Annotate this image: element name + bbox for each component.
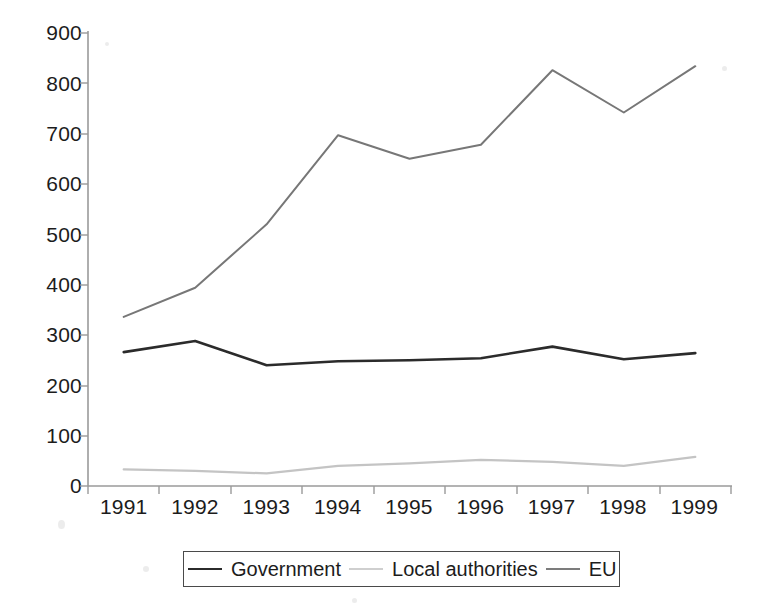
x-tick-label: 1991 [88, 495, 159, 525]
x-axis-ticks [88, 486, 731, 494]
x-tick-label: 1998 [587, 495, 658, 525]
legend-label-government: Government [231, 558, 341, 580]
legend-entry-local-authorities: Local authorities [345, 558, 542, 580]
series-line-government [124, 341, 696, 365]
x-tick-label: 1995 [373, 495, 444, 525]
data-series-group [124, 66, 696, 473]
legend-swatch-local-authorities [349, 568, 383, 570]
x-tick-label: 1993 [231, 495, 302, 525]
x-tick-label: 1994 [302, 495, 373, 525]
y-axis-ticks [80, 33, 88, 486]
scan-speckle [143, 566, 149, 572]
line-chart-figure: 900 800 700 600 500 400 300 200 100 0 [0, 0, 768, 609]
legend-swatch-government [188, 568, 222, 570]
scan-speckle [352, 598, 357, 603]
x-tick-label: 1999 [659, 495, 730, 525]
legend-swatch-eu [546, 568, 580, 570]
series-line-eu [124, 66, 696, 317]
legend-label-eu: EU [589, 558, 617, 580]
chart-axes [80, 31, 732, 494]
x-tick-label: 1992 [159, 495, 230, 525]
series-line-local-authorities [124, 457, 696, 474]
legend-entry-eu: EU [542, 558, 621, 580]
x-tick-label: 1997 [516, 495, 587, 525]
legend-entry-government: Government [184, 558, 345, 580]
x-axis-tick-labels: 1991 1992 1993 1994 1995 1996 1997 1998 … [88, 495, 730, 525]
scan-speckle [722, 66, 727, 71]
x-tick-label: 1996 [445, 495, 516, 525]
legend-label-local-authorities: Local authorities [392, 558, 538, 580]
scan-speckle [58, 520, 65, 529]
scan-speckle [105, 42, 109, 46]
chart-legend: Government Local authorities EU [183, 551, 620, 587]
